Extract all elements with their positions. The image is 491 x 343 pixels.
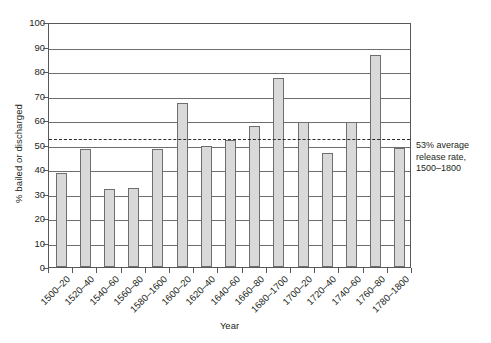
- y-tick-label: 50: [5, 141, 45, 151]
- x-tick-mark: [193, 268, 194, 273]
- reference-line-annotation: 53% average release rate, 1500–1800: [416, 140, 491, 175]
- bar: [273, 78, 284, 267]
- average-reference-line: [49, 139, 410, 140]
- y-tick-label: 100: [5, 18, 45, 28]
- bar: [370, 55, 381, 267]
- y-tick-label: 80: [5, 67, 45, 77]
- bar: [128, 188, 139, 267]
- x-tick-mark: [290, 268, 291, 273]
- x-tick-mark: [121, 268, 122, 273]
- bar: [152, 149, 163, 267]
- bar: [201, 146, 212, 267]
- annotation-line-2: release rate,: [416, 152, 491, 164]
- y-tick-label: 10: [5, 239, 45, 249]
- x-tick-mark: [72, 268, 73, 273]
- y-tick-label: 20: [5, 214, 45, 224]
- x-tick-mark: [217, 268, 218, 273]
- y-tick-label: 90: [5, 43, 45, 53]
- x-tick-mark: [96, 268, 97, 273]
- y-tick-label: 60: [5, 116, 45, 126]
- plot-area: [48, 23, 411, 268]
- x-tick-mark: [314, 268, 315, 273]
- x-tick-mark: [169, 268, 170, 273]
- x-tick-mark: [266, 268, 267, 273]
- y-tick-label: 0: [5, 263, 45, 273]
- bar: [80, 149, 91, 267]
- bar: [346, 122, 357, 267]
- bar: [56, 173, 67, 267]
- x-axis-title: Year: [48, 320, 411, 331]
- x-tick-mark: [145, 268, 146, 273]
- bar: [225, 140, 236, 267]
- y-tick-label: 40: [5, 165, 45, 175]
- bar-series: [49, 24, 410, 267]
- bar: [298, 122, 309, 267]
- annotation-line-1: 53% average: [416, 140, 491, 152]
- y-axis-title: % bailed or discharged: [13, 54, 24, 254]
- x-tick-mark: [387, 268, 388, 273]
- bar: [104, 189, 115, 267]
- x-tick-mark: [411, 268, 412, 273]
- x-tick-mark: [242, 268, 243, 273]
- x-tick-mark: [48, 268, 49, 273]
- bar: [249, 126, 260, 267]
- bar: [394, 148, 405, 267]
- x-tick-mark: [338, 268, 339, 273]
- y-tick-label: 30: [5, 190, 45, 200]
- y-tick-label: 70: [5, 92, 45, 102]
- bar: [322, 153, 333, 267]
- bar-chart-figure: % bailed or discharged 01020304050607080…: [0, 0, 491, 343]
- x-tick-mark: [363, 268, 364, 273]
- bar: [177, 103, 188, 267]
- annotation-line-3: 1500–1800: [416, 163, 491, 175]
